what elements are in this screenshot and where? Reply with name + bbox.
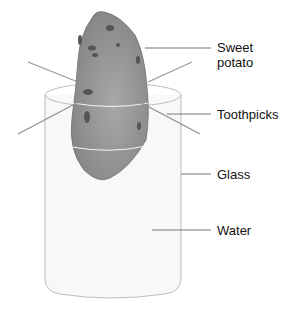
label-toothpicks: Toothpicks bbox=[217, 107, 278, 122]
label-water: Water bbox=[217, 223, 251, 238]
label-sweet-potato-line2: potato bbox=[217, 55, 253, 70]
label-glass: Glass bbox=[217, 167, 250, 182]
sweet-potato bbox=[71, 12, 148, 180]
label-sweet-potato-line1: Sweet bbox=[217, 40, 253, 55]
label-sweet-potato: Sweet potato bbox=[217, 40, 253, 70]
